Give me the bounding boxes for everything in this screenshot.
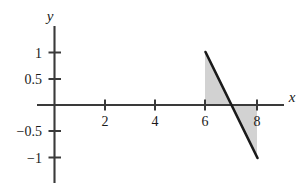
x-tick-label-2: 2 — [102, 114, 109, 129]
x-axis-label: x — [288, 89, 296, 105]
graph-figure: y x 2 4 6 8 1 0.5 −0.5 −1 — [0, 0, 308, 192]
x-tick-label-6: 6 — [202, 114, 209, 129]
y-tick-label-0.5: 0.5 — [25, 72, 43, 87]
cartesian-plot: y x 2 4 6 8 1 0.5 −0.5 −1 — [0, 0, 308, 192]
x-tick-label-8: 8 — [254, 114, 261, 129]
x-tick-label-4: 4 — [152, 114, 159, 129]
y-axis-label: y — [45, 8, 54, 24]
y-tick-label-neg1: −1 — [27, 151, 42, 166]
y-tick-label-neg0.5: −0.5 — [17, 124, 42, 139]
y-tick-label-1: 1 — [35, 46, 42, 61]
